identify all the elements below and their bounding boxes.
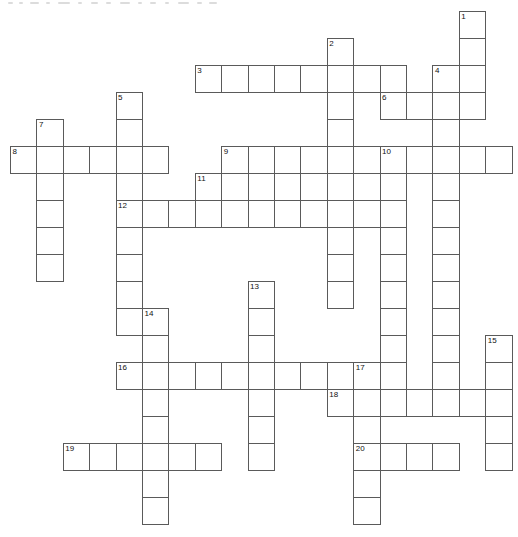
crossword-cell[interactable] [300, 200, 327, 228]
crossword-cell[interactable] [116, 308, 143, 336]
crossword-cell[interactable] [89, 146, 116, 174]
crossword-cell[interactable] [485, 146, 512, 174]
crossword-cell[interactable] [380, 227, 407, 255]
crossword-cell[interactable] [142, 335, 169, 363]
crossword-cell[interactable] [300, 65, 327, 93]
crossword-cell-numbered-15[interactable]: 15 [485, 335, 512, 363]
crossword-cell[interactable] [432, 281, 459, 309]
crossword-cell[interactable] [300, 146, 327, 174]
crossword-cell[interactable] [116, 281, 143, 309]
crossword-cell[interactable] [36, 254, 63, 282]
crossword-cell[interactable] [432, 362, 459, 390]
crossword-cell-numbered-11[interactable]: 11 [195, 173, 222, 201]
crossword-cell[interactable] [36, 227, 63, 255]
crossword-cell[interactable] [485, 362, 512, 390]
crossword-cell[interactable] [116, 254, 143, 282]
crossword-cell[interactable] [406, 389, 433, 417]
crossword-cell-numbered-5[interactable]: 5 [116, 92, 143, 120]
crossword-cell[interactable] [353, 497, 380, 525]
crossword-cell[interactable] [274, 200, 301, 228]
crossword-cell[interactable] [248, 308, 275, 336]
crossword-cell[interactable] [327, 227, 354, 255]
crossword-cell[interactable] [380, 281, 407, 309]
crossword-cell-numbered-19[interactable]: 19 [63, 443, 90, 471]
crossword-cell[interactable] [459, 146, 486, 174]
crossword-cell[interactable] [485, 443, 512, 471]
crossword-cell[interactable] [89, 443, 116, 471]
crossword-cell-numbered-3[interactable]: 3 [195, 65, 222, 93]
crossword-puzzle[interactable]: 1234567891011121314151617181920 [0, 0, 518, 537]
crossword-cell[interactable] [116, 146, 143, 174]
crossword-cell[interactable] [248, 443, 275, 471]
crossword-cell[interactable] [116, 173, 143, 201]
crossword-cell[interactable] [142, 416, 169, 444]
crossword-cell[interactable] [274, 362, 301, 390]
crossword-cell[interactable] [432, 308, 459, 336]
crossword-cell[interactable] [432, 92, 459, 120]
crossword-cell[interactable] [248, 65, 275, 93]
crossword-cell[interactable] [353, 146, 380, 174]
crossword-cell-numbered-20[interactable]: 20 [353, 443, 380, 471]
crossword-cell[interactable] [116, 227, 143, 255]
crossword-cell[interactable] [274, 65, 301, 93]
crossword-cell[interactable] [380, 65, 407, 93]
crossword-cell-numbered-7[interactable]: 7 [36, 119, 63, 147]
crossword-cell[interactable] [116, 119, 143, 147]
crossword-cell[interactable] [327, 362, 354, 390]
crossword-cell[interactable] [459, 38, 486, 66]
crossword-cell[interactable] [142, 389, 169, 417]
crossword-cell[interactable] [63, 146, 90, 174]
crossword-cell[interactable] [327, 119, 354, 147]
crossword-cell[interactable] [485, 389, 512, 417]
crossword-cell-numbered-14[interactable]: 14 [142, 308, 169, 336]
crossword-cell[interactable] [142, 362, 169, 390]
crossword-cell-numbered-6[interactable]: 6 [380, 92, 407, 120]
crossword-cell[interactable] [248, 173, 275, 201]
crossword-cell[interactable] [327, 254, 354, 282]
crossword-cell[interactable] [142, 470, 169, 498]
crossword-cell-numbered-13[interactable]: 13 [248, 281, 275, 309]
crossword-cell[interactable] [168, 362, 195, 390]
crossword-cell[interactable] [142, 200, 169, 228]
crossword-cell[interactable] [380, 173, 407, 201]
crossword-cell[interactable] [406, 146, 433, 174]
crossword-cell[interactable] [248, 389, 275, 417]
crossword-cell-numbered-16[interactable]: 16 [116, 362, 143, 390]
crossword-cell[interactable] [380, 389, 407, 417]
crossword-cell[interactable] [432, 173, 459, 201]
crossword-cell[interactable] [300, 173, 327, 201]
crossword-cell[interactable] [380, 254, 407, 282]
crossword-cell[interactable] [353, 416, 380, 444]
crossword-cell-numbered-2[interactable]: 2 [327, 38, 354, 66]
crossword-cell[interactable] [195, 362, 222, 390]
crossword-cell[interactable] [248, 335, 275, 363]
crossword-cell-numbered-4[interactable]: 4 [432, 65, 459, 93]
crossword-cell[interactable] [300, 362, 327, 390]
crossword-cell[interactable] [459, 65, 486, 93]
crossword-cell[interactable] [432, 389, 459, 417]
crossword-cell[interactable] [195, 200, 222, 228]
crossword-cell[interactable] [380, 200, 407, 228]
crossword-cell[interactable] [432, 443, 459, 471]
crossword-cell[interactable] [432, 119, 459, 147]
crossword-cell[interactable] [432, 335, 459, 363]
crossword-cell[interactable] [406, 92, 433, 120]
crossword-cell[interactable] [380, 362, 407, 390]
crossword-cell[interactable] [432, 227, 459, 255]
crossword-cell[interactable] [432, 146, 459, 174]
crossword-cell[interactable] [142, 146, 169, 174]
crossword-cell[interactable] [36, 173, 63, 201]
crossword-cell-numbered-18[interactable]: 18 [327, 389, 354, 417]
crossword-cell[interactable] [327, 92, 354, 120]
crossword-cell[interactable] [221, 362, 248, 390]
crossword-cell[interactable] [353, 470, 380, 498]
crossword-cell-numbered-12[interactable]: 12 [116, 200, 143, 228]
crossword-cell[interactable] [221, 200, 248, 228]
crossword-cell[interactable] [327, 200, 354, 228]
crossword-cell[interactable] [221, 173, 248, 201]
crossword-cell[interactable] [248, 362, 275, 390]
crossword-cell-numbered-10[interactable]: 10 [380, 146, 407, 174]
crossword-cell[interactable] [380, 443, 407, 471]
crossword-cell[interactable] [36, 146, 63, 174]
crossword-cell[interactable] [432, 254, 459, 282]
